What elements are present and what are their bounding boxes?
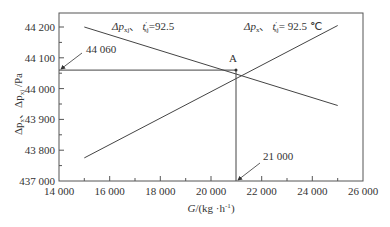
annotation-x-value: 21 000 bbox=[263, 150, 294, 162]
x-axis-label: G/(kg ·h-1) bbox=[187, 202, 234, 215]
svg-text:43 800: 43 800 bbox=[25, 144, 56, 156]
y-axis-label: Δpx、Δpxj /Pa bbox=[12, 73, 26, 135]
plot-frame bbox=[59, 13, 363, 181]
series-label-dp-x: Δpx、t′sj= 92.5 ℃ bbox=[243, 20, 322, 34]
svg-text:16 000: 16 000 bbox=[95, 185, 126, 197]
annotation-arrow-y bbox=[61, 53, 82, 69]
x-axis-ticks bbox=[84, 176, 337, 181]
annotation-y-value: 44 060 bbox=[86, 43, 117, 55]
svg-text:22 000: 22 000 bbox=[247, 185, 278, 197]
svg-text:24 000: 24 000 bbox=[297, 185, 328, 197]
svg-text:18 000: 18 000 bbox=[145, 185, 176, 197]
annotation-arrow-x bbox=[238, 163, 260, 180]
y-tick-labels: 437 000 43 800 43 900 44 000 44 100 44 2… bbox=[19, 21, 55, 187]
intersection-point-a bbox=[235, 69, 238, 72]
svg-text:44 000: 44 000 bbox=[25, 83, 56, 95]
svg-text:44 100: 44 100 bbox=[25, 52, 56, 64]
series-line-dp-x bbox=[84, 26, 337, 158]
svg-text:14 000: 14 000 bbox=[44, 185, 75, 197]
point-a-label: A bbox=[229, 52, 237, 64]
chart: 437 000 43 800 43 900 44 000 44 100 44 2… bbox=[0, 0, 390, 227]
svg-text:20 000: 20 000 bbox=[196, 185, 227, 197]
svg-text:26 000: 26 000 bbox=[348, 185, 379, 197]
x-tick-labels: 14 000 16 000 18 000 20 000 22 000 24 00… bbox=[44, 185, 379, 197]
series-line-dp-xj bbox=[84, 27, 337, 106]
y-axis-ticks bbox=[59, 27, 64, 166]
series-label-dp-xj: Δpxj、t′sj=92.5 bbox=[111, 20, 175, 34]
svg-text:43 900: 43 900 bbox=[25, 113, 56, 125]
svg-text:44 200: 44 200 bbox=[25, 21, 56, 33]
